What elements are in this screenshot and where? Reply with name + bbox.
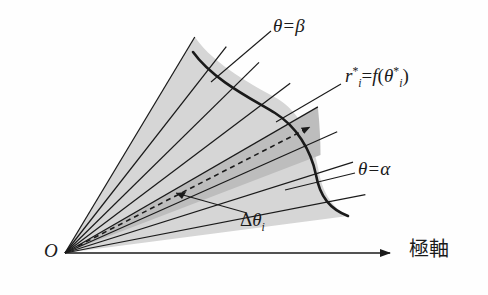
label-theta-equals-beta: θ=β: [273, 16, 305, 35]
theta-symbol: θ: [252, 209, 261, 230]
label-polar-axis: 極軸: [409, 239, 449, 259]
label-r-star-equals-f-theta-star: r*i=f(θ*i): [345, 66, 409, 90]
polar-axis-text: 極軸: [409, 237, 449, 261]
delta-symbol: Δ: [240, 209, 252, 230]
origin-text: O: [44, 240, 58, 261]
label-delta-theta-i: Δθi: [240, 210, 265, 234]
theta-subscript-i: i: [262, 221, 265, 234]
label-theta-beta-text: θ=β: [273, 15, 305, 36]
theta-symbol: θ: [384, 65, 393, 86]
leader-theta-beta: [211, 31, 271, 82]
paren-close: ): [402, 65, 408, 86]
label-theta-alpha-text: θ=α: [358, 158, 390, 179]
equals-sign: =: [362, 65, 373, 86]
label-theta-equals-alpha: θ=α: [358, 159, 390, 178]
label-origin-O: O: [44, 241, 58, 260]
polar-sector-diagram: θ=β r*i=f(θ*i) θ=α Δθi O 極軸: [0, 0, 488, 295]
